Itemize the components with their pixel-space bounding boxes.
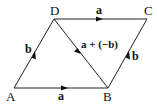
vertex-label-b: B	[103, 89, 112, 104]
vector-label-dc: a	[96, 3, 102, 17]
vector-label-ad: b	[25, 42, 32, 56]
vertex-label-a: A	[6, 89, 16, 104]
arrow-db-icon	[74, 48, 81, 54]
vector-label-bc: b	[132, 49, 139, 63]
arrow-ad-icon	[32, 51, 37, 60]
parallelogram-vector-diagram: A B C D a a b b a + (−b)	[0, 0, 157, 105]
edge-bc	[108, 19, 147, 88]
vertex-label-d: D	[50, 3, 59, 18]
vertex-label-c: C	[144, 3, 153, 18]
vector-label-ab: a	[58, 89, 64, 103]
edge-db	[54, 19, 108, 88]
vector-label-db: a + (−b)	[81, 38, 118, 51]
arrow-dc-icon	[96, 17, 103, 22]
